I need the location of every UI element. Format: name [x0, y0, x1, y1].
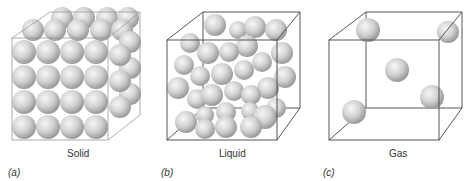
solid-cube	[12, 7, 141, 140]
panel-letter-a: (a)	[8, 167, 20, 178]
solid-label: Solid	[67, 148, 89, 159]
panel-letter-c: (c)	[323, 167, 335, 178]
gas-cube	[329, 12, 462, 140]
liquid-cube	[167, 12, 300, 140]
gas-label: Gas	[389, 148, 407, 159]
liquid-label: Liquid	[219, 148, 246, 159]
panel-letter-b: (b)	[161, 167, 173, 178]
